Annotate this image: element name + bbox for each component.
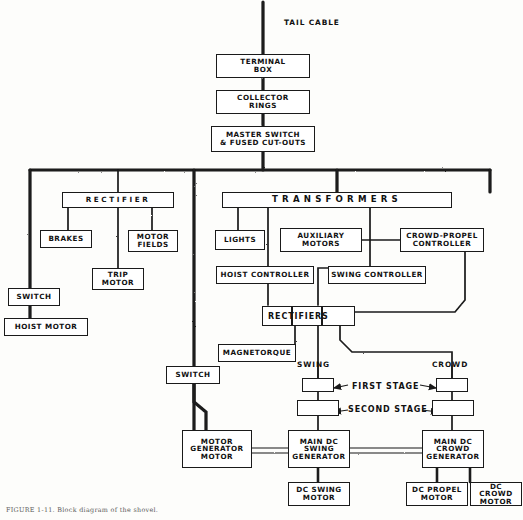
block-crowd-second-stage[interactable] [432, 400, 474, 416]
second-stage-label: SECOND STAGE [348, 405, 428, 414]
block-lights[interactable]: LIGHTS [215, 230, 265, 250]
figure-caption: FIGURE 1-11. Block diagram of the shovel… [6, 506, 158, 514]
block-switch-lower[interactable]: SWITCH [166, 366, 220, 384]
block-trip-motor[interactable]: TRIP MOTOR [92, 268, 144, 290]
block-collector-rings[interactable]: COLLECTOR RINGS [216, 90, 310, 114]
block-swing-second-stage[interactable] [297, 400, 339, 416]
diagram-canvas: TAIL CABLE TERMINAL BOX COLLECTOR RINGS … [0, 0, 523, 520]
swing-label: SWING [297, 360, 330, 369]
block-hoist-controller[interactable]: HOIST CONTROLLER [216, 266, 314, 284]
first-stage-label: FIRST STAGE [352, 382, 419, 391]
block-dc-crowd-motor[interactable]: DC CROWD MOTOR [470, 482, 522, 506]
block-main-dc-swing-generator[interactable]: MAIN DC SWING GENERATOR [288, 430, 350, 468]
block-motor-generator-motor[interactable]: MOTOR GENERATOR MOTOR [182, 430, 252, 468]
block-hoist-motor[interactable]: HOIST MOTOR [4, 318, 88, 336]
block-main-dc-crowd-generator[interactable]: MAIN DC CROWD GENERATOR [422, 430, 484, 468]
block-crowd-first-stage[interactable] [436, 378, 468, 392]
block-master-switch[interactable]: MASTER SWITCH & FUSED CUT-OUTS [211, 126, 315, 152]
block-swing-first-stage[interactable] [302, 378, 334, 392]
crowd-label: CROWD [432, 360, 468, 369]
block-dc-propel-motor[interactable]: DC PROPEL MOTOR [406, 482, 468, 506]
tail-cable-label: TAIL CABLE [284, 18, 340, 27]
block-transformers[interactable]: TRANSFORMERS [222, 192, 452, 208]
block-auxiliary-motors[interactable]: AUXILIARY MOTORS [280, 228, 362, 252]
block-terminal-box[interactable]: TERMINAL BOX [216, 54, 310, 78]
block-switch-left[interactable]: SWITCH [8, 288, 60, 306]
block-brakes[interactable]: BRAKES [40, 230, 92, 248]
block-motor-fields[interactable]: MOTOR FIELDS [128, 230, 178, 252]
block-dc-swing-motor[interactable]: DC SWING MOTOR [288, 482, 350, 506]
block-rectifiers-label: RECTIFIERS [268, 312, 329, 321]
block-magnetorque[interactable]: MAGNETORQUE [218, 344, 296, 362]
block-swing-controller[interactable]: SWING CONTROLLER [328, 266, 426, 284]
block-rectifier[interactable]: RECTIFIER [62, 192, 174, 208]
block-crowd-propel-controller[interactable]: CROWD-PROPEL CONTROLLER [400, 228, 484, 252]
